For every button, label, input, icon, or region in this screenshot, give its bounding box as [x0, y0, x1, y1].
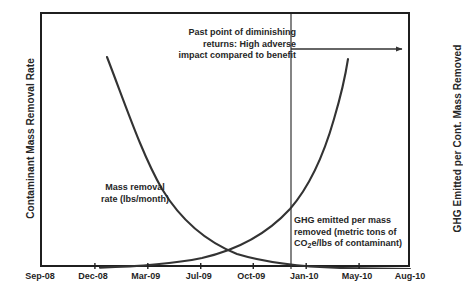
- mass-removal-rate-label: Mass removal rate (lbs/month): [89, 182, 181, 205]
- x-tick-label: Sep-08: [12, 271, 68, 281]
- ghg-co2-prefix: CO: [294, 238, 308, 248]
- plot-area: Past point of diminishing returns: High …: [40, 12, 410, 267]
- diminishing-returns-annotation: Past point of diminishing returns: High …: [146, 27, 296, 62]
- x-tick-label: Jul-09: [171, 271, 227, 281]
- x-tick-label: Oct-09: [223, 271, 279, 281]
- x-tick-label: Dec-08: [65, 271, 121, 281]
- mass-removal-label-line-1: Mass removal: [89, 182, 181, 194]
- ghg-label-line-3: CO2e/lbs of contaminant): [294, 238, 414, 252]
- annotation-line-3: impact compared to benefit: [146, 50, 296, 62]
- annotation-line-1: Past point of diminishing: [146, 27, 296, 39]
- y-axis-left-title: Contaminant Mass Removal Rate: [25, 49, 36, 229]
- ghg-emitted-label: GHG emitted per mass removed (metric ton…: [294, 215, 414, 252]
- y-axis-right-title: GHG Emitted per Cont. Mass Removed: [452, 14, 463, 264]
- x-tick-label: Mar-09: [118, 271, 174, 281]
- x-tick-label: May-10: [329, 271, 385, 281]
- annotation-line-2: returns: High adverse: [146, 39, 296, 51]
- ghg-label-line-2: removed (metric tons of: [294, 227, 414, 239]
- x-tick-label: Jan-10: [276, 271, 332, 281]
- ghg-label-line-1: GHG emitted per mass: [294, 215, 414, 227]
- x-axis-tick-labels: Sep-08Dec-08Mar-09Jul-09Oct-09Jan-10May-…: [0, 271, 453, 289]
- ghg-co2-suffix: e/lbs of contaminant): [311, 238, 402, 248]
- x-tick-label: Aug-10: [382, 271, 438, 281]
- mass-removal-label-line-2: rate (lbs/month): [89, 194, 181, 206]
